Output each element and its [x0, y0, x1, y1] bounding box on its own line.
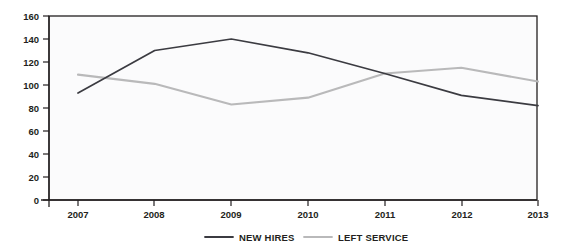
y-tick-label-120: 120	[23, 57, 39, 68]
y-tick-label-20: 20	[28, 172, 39, 183]
legend-label-left-service: LEFT SERVICE	[338, 232, 408, 243]
x-tick-label-2008: 2008	[143, 209, 164, 220]
chart-canvas: 160 140 120 100 80 60 40 20 0 2007 2008	[0, 0, 577, 252]
y-tick-label-0: 0	[34, 195, 39, 206]
x-tick-label-2007: 2007	[67, 209, 88, 220]
y-tick-label-40: 40	[28, 149, 39, 160]
x-tick-label-2010: 2010	[297, 209, 318, 220]
x-tick-label-2009: 2009	[220, 209, 241, 220]
y-tick-label-100: 100	[23, 80, 39, 91]
plot-area-background	[49, 16, 537, 200]
x-tick-label-2012: 2012	[451, 209, 472, 220]
x-axis: 2007 2008 2009 2010 2011 2012 2013	[41, 200, 549, 220]
legend-label-new-hires: NEW HIRES	[239, 232, 295, 243]
legend: NEW HIRES LEFT SERVICE	[205, 232, 408, 243]
y-tick-label-140: 140	[23, 34, 39, 45]
y-axis: 160 140 120 100 80 60 40 20 0	[23, 11, 49, 208]
y-tick-label-80: 80	[28, 103, 39, 114]
x-tick-label-2011: 2011	[375, 209, 396, 220]
x-tick-label-2013: 2013	[527, 209, 548, 220]
y-tick-label-160: 160	[23, 11, 39, 22]
y-tick-label-60: 60	[28, 126, 39, 137]
line-chart: 160 140 120 100 80 60 40 20 0 2007 2008	[0, 0, 577, 252]
